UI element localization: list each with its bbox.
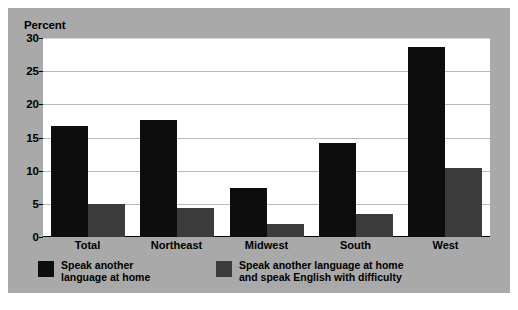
legend-item-speak-english-with-difficulty: Speak another language at home and speak…	[216, 260, 404, 283]
legend-item-speak-another-language-at-home: Speak another language at home	[38, 260, 150, 283]
bar-total-series0	[51, 126, 88, 237]
y-tick-label-5: 5	[9, 199, 39, 209]
bar-south-series0	[319, 143, 356, 237]
legend-swatch-icon	[216, 261, 232, 277]
bar-midwest-series0	[230, 188, 267, 237]
y-tick-label-30: 30	[9, 33, 39, 43]
bar-total-series1	[88, 204, 125, 237]
bar-northeast-series0	[140, 120, 177, 237]
legend-label: Speak another language at home and speak…	[239, 260, 404, 283]
bar-west-series0	[408, 47, 445, 237]
x-tick-label-midwest: Midwest	[222, 239, 311, 252]
y-tick-label-15: 15	[9, 133, 39, 143]
bar-midwest-series1	[267, 224, 304, 237]
y-tick-label-10: 10	[9, 166, 39, 176]
chart-legend: Speak another language at home Speak ano…	[8, 260, 510, 293]
bar-northeast-series1	[177, 208, 214, 237]
x-axis-tick-labels: TotalNortheastMidwestSouthWest	[43, 239, 490, 255]
y-tick-label-20: 20	[9, 99, 39, 109]
x-tick-label-total: Total	[43, 239, 132, 252]
chart-panel: Percent 051015202530 TotalNortheastMidwe…	[8, 8, 510, 293]
gridline-30	[43, 38, 490, 39]
x-tick-label-west: West	[401, 239, 490, 252]
bar-west-series1	[445, 168, 482, 237]
y-tick-mark-0	[39, 237, 43, 238]
legend-label: Speak another language at home	[61, 260, 150, 283]
chart-figure: Percent 051015202530 TotalNortheastMidwe…	[0, 0, 518, 310]
y-axis-title: Percent	[24, 18, 66, 32]
y-tick-label-25: 25	[9, 66, 39, 76]
bar-south-series1	[356, 214, 393, 237]
plot-area	[43, 38, 490, 237]
y-axis-tick-labels: 051015202530	[8, 38, 39, 237]
x-tick-label-south: South	[311, 239, 400, 252]
y-tick-label-0: 0	[9, 232, 39, 242]
x-tick-label-northeast: Northeast	[132, 239, 221, 252]
legend-swatch-icon	[38, 261, 54, 277]
